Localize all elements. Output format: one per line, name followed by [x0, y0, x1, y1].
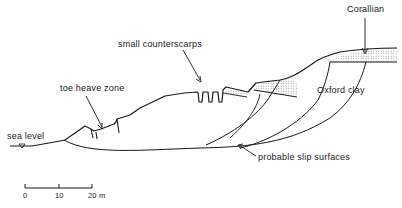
ground-profile: [10, 48, 397, 146]
slip-surfaces-leader: [239, 145, 256, 156]
corallian-layer: [327, 48, 397, 62]
toe-heave-cracks: [91, 119, 119, 139]
counterscarps-label: small counterscarps: [118, 39, 202, 49]
landslide-cross-section: Corallian small counterscarps toe heave …: [0, 0, 402, 208]
slip-surface-outer: [64, 62, 366, 150]
counterscarps-leader: [183, 50, 200, 80]
slip-surface-inner: [240, 62, 330, 148]
scale-tick-10: 10: [55, 191, 64, 200]
scale-tick-0: 0: [23, 191, 27, 200]
scale-tick-20m: 20 m: [88, 191, 105, 200]
slip-surfaces-label: probable slip surfaces: [258, 152, 350, 162]
sea-level-label: sea level: [7, 131, 44, 141]
corallian-label: Corallian: [347, 4, 384, 14]
toe-heave-label: toe heave zone: [60, 83, 124, 93]
oxford-clay-label: Oxford clay: [317, 85, 365, 95]
cross-section-drawing: [0, 0, 402, 208]
toe-heave-leader: [86, 96, 102, 127]
scale-bar: [25, 184, 92, 188]
